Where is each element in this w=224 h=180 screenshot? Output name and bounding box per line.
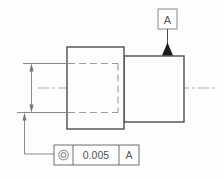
small-cylinder-body: [124, 56, 184, 122]
datum-feature-symbol: A: [158, 9, 177, 56]
dimension-line: [29, 64, 33, 113]
large-cylinder-body: [67, 47, 124, 129]
fcf-leader-line: [25, 119, 55, 154]
datum-triangle-icon: [162, 43, 173, 56]
engineering-drawing-canvas: 0.005 A A: [0, 0, 224, 180]
datum-flag-label: A: [164, 14, 172, 26]
feature-control-frame: 0.005 A: [54, 145, 139, 165]
fcf-tolerance-value: 0.005: [83, 149, 109, 161]
fcf-leader-arrow-icon: [23, 113, 27, 121]
fcf-leader: [23, 113, 55, 155]
dimension-arrow-down-icon: [29, 105, 33, 113]
gdt-drawing: 0.005 A A: [0, 0, 224, 180]
fcf-datum-reference: A: [125, 149, 132, 161]
dimension-arrow-up-icon: [29, 64, 33, 72]
